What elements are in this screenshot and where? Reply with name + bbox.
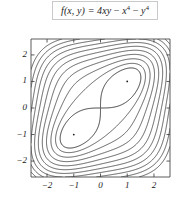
x-axis-tick-label: −1: [64, 180, 84, 190]
y-axis-tick-label: 2: [5, 49, 27, 59]
minus-sign-1: −: [111, 6, 122, 17]
y-axis-tick-label: −2: [5, 155, 27, 165]
x-axis-tick-label: −2: [37, 180, 57, 190]
contour-line: [165, 39, 170, 44]
x-axis-tick-label: 2: [144, 180, 164, 190]
contour-plot-svg: [0, 22, 182, 201]
contour-line: [139, 39, 170, 70]
minus-sign-2: −: [130, 6, 141, 17]
contour-line: [60, 108, 100, 148]
contour-line: [101, 68, 141, 108]
y-axis-tick-label: 0: [5, 102, 27, 112]
x-axis-tick-label: 0: [91, 180, 111, 190]
contour-plot: −2−1012210−1−2y: [0, 22, 182, 201]
contour-line: [31, 39, 62, 70]
x-axis-tick-label: 1: [117, 180, 137, 190]
y-axis-tick-label: 1: [5, 75, 27, 85]
y-axis-tick-label: −1: [5, 129, 27, 139]
contour-line: [31, 172, 36, 177]
formula-box: f(x, y) = 4xy − x4 − y4: [52, 1, 158, 20]
formula-text: f(x, y) = 4xy − x4 − y4: [61, 4, 149, 16]
contour-line: [31, 146, 62, 177]
contour-lines: [31, 39, 170, 177]
formula-exponent-y: 4: [146, 4, 149, 11]
critical-point-dot: [126, 81, 128, 83]
contour-line: [139, 146, 170, 177]
critical-point-dot: [73, 134, 75, 136]
formula-lhs: f(x, y) = 4xy: [61, 6, 111, 17]
